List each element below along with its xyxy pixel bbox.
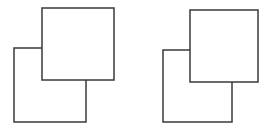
overlapping-squares-figure: Two overlapping square pairs: [0, 0, 271, 134]
right-pair-upper-right-square-fill: [190, 10, 258, 82]
left-pair-upper-right-square-fill: [42, 8, 114, 80]
